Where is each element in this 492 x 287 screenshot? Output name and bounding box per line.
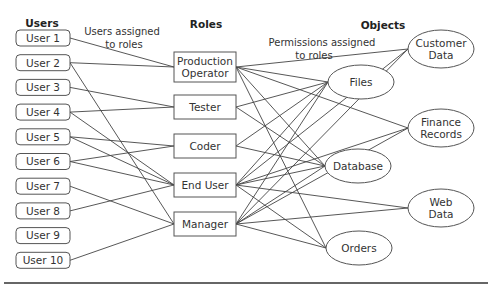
object-label: Database: [333, 160, 383, 172]
object-label: Finance: [421, 116, 461, 128]
user-label: User 3: [26, 81, 60, 93]
user-node[interactable]: User 2: [16, 55, 70, 71]
user-node[interactable]: User 1: [16, 30, 70, 46]
user-node[interactable]: User 10: [16, 252, 70, 268]
role-label: End User: [181, 179, 229, 191]
users-heading: Users: [25, 17, 58, 29]
object-label: Orders: [341, 242, 376, 254]
user-node[interactable]: User 9: [16, 228, 70, 244]
object-node-database[interactable]: Database: [325, 149, 391, 183]
user-label: User 9: [26, 229, 60, 241]
user-role-edge: [70, 87, 174, 107]
user-node[interactable]: User 7: [16, 178, 70, 194]
object-node-orders[interactable]: Orders: [326, 231, 392, 265]
user-label: User 1: [26, 32, 60, 44]
user-label: User 2: [26, 57, 60, 69]
role-node-tester[interactable]: Tester: [174, 95, 236, 119]
user-role-edge: [70, 63, 174, 224]
user-role-edge: [70, 137, 174, 146]
permissions-assigned-annotation-line2: to roles: [295, 50, 332, 61]
user-role-edge: [70, 224, 174, 260]
user-label: User 8: [26, 205, 60, 217]
permissions-assigned-annotation-line1: Permissions assigned: [269, 37, 376, 48]
role-node-enduser[interactable]: End User: [174, 173, 236, 197]
object-node-customer[interactable]: CustomerData: [408, 30, 474, 68]
role-object-edge: [236, 224, 326, 248]
role-label: Manager: [182, 218, 229, 230]
role-label: Tester: [188, 101, 221, 113]
object-label: Files: [349, 76, 372, 88]
user-node[interactable]: User 4: [16, 104, 70, 120]
object-node-finance[interactable]: FinanceRecords: [408, 109, 474, 147]
role-object-edge: [236, 208, 408, 224]
roles-heading: Roles: [190, 18, 222, 30]
object-node-web[interactable]: WebData: [408, 189, 474, 227]
user-label: User 7: [26, 180, 60, 192]
rbac-diagram: User 1User 2User 3User 4User 5User 6User…: [0, 0, 492, 287]
users-assigned-annotation-line2: to roles: [105, 39, 142, 50]
role-label: Operator: [182, 67, 230, 79]
object-label: Data: [428, 208, 453, 220]
object-label: Records: [420, 128, 462, 140]
user-role-edge: [70, 162, 174, 186]
user-role-edge: [70, 186, 174, 224]
role-object-edge: [236, 67, 328, 82]
role-object-edge: [236, 82, 328, 146]
object-label: Customer: [415, 37, 467, 49]
user-node[interactable]: User 5: [16, 129, 70, 145]
user-label: User 4: [26, 106, 60, 118]
user-node[interactable]: User 8: [16, 203, 70, 219]
user-label: User 5: [26, 131, 60, 143]
user-role-edge: [70, 185, 174, 211]
object-label: Web: [430, 196, 453, 208]
user-label: User 10: [23, 254, 64, 266]
role-node-prod[interactable]: ProductionOperator: [174, 52, 236, 82]
role-node-manager[interactable]: Manager: [174, 212, 236, 236]
user-node[interactable]: User 6: [16, 154, 70, 170]
object-label: Data: [428, 49, 453, 61]
role-object-edge: [236, 185, 408, 208]
role-object-edge: [236, 67, 325, 166]
user-role-edge: [70, 63, 174, 67]
user-label: User 6: [26, 155, 60, 167]
object-node-files[interactable]: Files: [328, 65, 394, 99]
objects-heading: Objects: [361, 19, 406, 31]
role-label: Production: [177, 55, 233, 67]
user-node[interactable]: User 3: [16, 79, 70, 95]
user-role-edge: [70, 107, 174, 112]
role-node-coder[interactable]: Coder: [174, 134, 236, 158]
role-label: Coder: [189, 140, 221, 152]
users-assigned-annotation-line1: Users assigned: [84, 26, 160, 37]
